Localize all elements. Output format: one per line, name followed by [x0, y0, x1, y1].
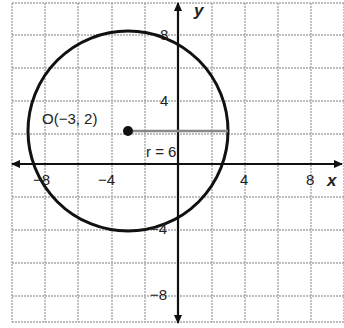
tick-x-neg8: −8: [33, 171, 50, 188]
tick-y-4: 4: [160, 92, 168, 109]
radius-label: r = 6: [146, 143, 176, 160]
y-axis-label: y: [193, 1, 205, 20]
tick-y-8: 8: [160, 26, 168, 43]
tick-x-neg4: −4: [98, 171, 115, 188]
x-axis-label: x: [326, 171, 338, 190]
tick-x-8: 8: [306, 171, 314, 188]
tick-y-neg8: −8: [150, 286, 167, 303]
center-label: O(−3, 2): [42, 110, 97, 127]
tick-x-4: 4: [240, 171, 248, 188]
coordinate-plane: O(−3, 2) r = 6 −8 −4 4 8 x 8 4 −4 −8 y: [0, 0, 344, 328]
tick-y-neg4: −4: [150, 220, 167, 237]
center-point: [123, 126, 133, 136]
